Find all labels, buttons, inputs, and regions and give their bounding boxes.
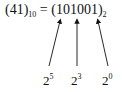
power-exponent: 3 [78,72,82,81]
power-2-3: 23 [71,72,82,89]
power-2-0: 20 [102,72,113,89]
arrow-2-0 [98,21,108,66]
power-2-5: 25 [43,72,54,89]
power-exponent: 0 [109,72,113,81]
power-exponent: 5 [50,72,54,81]
arrow-2-5 [49,21,60,66]
